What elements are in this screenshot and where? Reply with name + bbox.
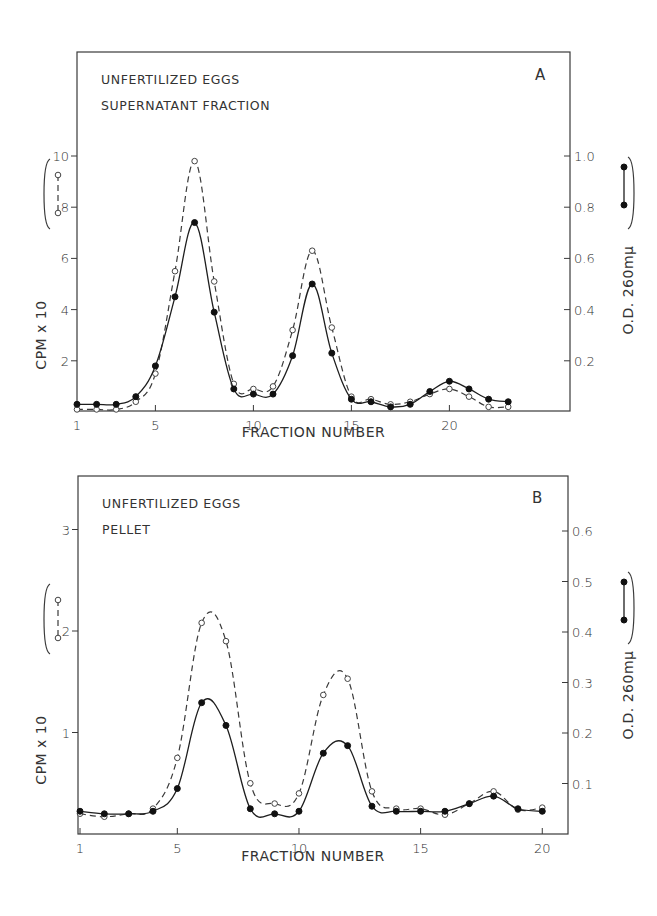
open-circle-legend-icon — [44, 584, 61, 654]
data-point — [486, 396, 492, 402]
data-point — [211, 279, 217, 285]
plot-frame — [78, 476, 568, 834]
data-point — [348, 396, 354, 402]
data-point — [113, 401, 119, 407]
data-point — [77, 808, 83, 814]
panel-subtitle: SUPERNATANT FRACTION — [101, 98, 270, 113]
data-point — [152, 363, 158, 369]
y2-tick-label: 0.2 — [574, 354, 595, 369]
x-axis-label: FRACTION NUMBER — [241, 848, 384, 864]
data-point — [418, 808, 424, 814]
data-point — [199, 700, 205, 706]
data-point — [175, 755, 181, 761]
y2-tick-label: 0.6 — [574, 251, 595, 266]
y2-tick-label: 0.2 — [572, 726, 593, 741]
panel-subtitle: PELLET — [102, 522, 151, 537]
y-tick-label: 2 — [62, 624, 70, 639]
data-point — [290, 353, 296, 359]
data-point — [133, 394, 139, 400]
data-point — [486, 404, 492, 410]
data-point — [309, 248, 315, 254]
y2-tick-label: 0.4 — [572, 625, 593, 640]
data-point — [172, 268, 178, 274]
data-point — [407, 401, 413, 407]
x-tick-label: 20 — [441, 418, 458, 433]
y2-tick-label: 0.8 — [574, 200, 595, 215]
data-point — [272, 801, 278, 807]
panel-letter: A — [535, 66, 546, 84]
series-cpm — [77, 612, 545, 820]
x-tick-label: 1 — [76, 841, 84, 856]
y-tick-label: 8 — [61, 200, 69, 215]
data-point — [515, 806, 521, 812]
data-point — [223, 638, 229, 644]
data-point — [466, 386, 472, 392]
y2-tick-label: 1.0 — [574, 149, 595, 164]
data-point — [442, 808, 448, 814]
data-point — [296, 791, 302, 797]
data-point — [345, 676, 351, 682]
data-point — [505, 399, 511, 405]
filled-circle-legend-icon — [621, 157, 634, 229]
series-line — [77, 161, 508, 410]
series-line — [80, 612, 542, 817]
data-point — [250, 391, 256, 397]
y2-tick-label: 0.3 — [572, 676, 593, 691]
data-point — [270, 384, 276, 390]
data-point — [369, 789, 375, 795]
data-point — [393, 808, 399, 814]
y-tick-label: 6 — [61, 251, 69, 266]
series-cpm — [74, 158, 511, 412]
data-point — [211, 309, 217, 315]
data-point — [539, 808, 545, 814]
data-point — [94, 401, 100, 407]
y2-axis-label: O.D. 260mμ — [620, 651, 636, 740]
y-tick-label: 1 — [62, 726, 70, 741]
data-point — [329, 350, 335, 356]
data-point — [74, 401, 80, 407]
y2-tick-label: 0.1 — [572, 777, 593, 792]
data-point — [223, 722, 229, 728]
data-point — [290, 327, 296, 333]
data-point — [388, 404, 394, 410]
panel-title: UNFERTILIZED EGGS — [102, 496, 241, 511]
open-circle-legend-icon — [44, 159, 61, 229]
data-point — [101, 811, 107, 817]
y2-tick-label: 0.6 — [572, 524, 593, 539]
data-point — [199, 620, 205, 626]
x-tick-label: 5 — [151, 418, 159, 433]
data-point — [368, 399, 374, 405]
chart-panel-b: 151015201230.10.20.30.40.50.6UNFERTILIZE… — [33, 476, 636, 864]
data-point — [272, 811, 278, 817]
data-point — [320, 750, 326, 756]
filled-circle-legend-icon — [621, 572, 634, 644]
y2-tick-label: 0.4 — [574, 303, 595, 318]
data-point — [248, 780, 254, 786]
data-point — [427, 389, 433, 395]
data-point — [345, 743, 351, 749]
panel-title: UNFERTILIZED EGGS — [101, 72, 240, 87]
data-point — [466, 801, 472, 807]
y-axis-label: CPM x 10 — [33, 300, 49, 369]
data-point — [491, 793, 497, 799]
data-point — [321, 692, 327, 698]
chart-panel-a: 151015202468100.20.40.60.81.0UNFERTILIZE… — [33, 52, 636, 440]
y-tick-label: 4 — [61, 303, 69, 318]
x-tick-label: 1 — [73, 418, 81, 433]
data-point — [231, 386, 237, 392]
data-point — [466, 394, 472, 400]
data-point — [247, 806, 253, 812]
data-point — [329, 325, 335, 331]
data-point — [172, 294, 178, 300]
x-tick-label: 15 — [412, 841, 429, 856]
data-point — [174, 786, 180, 792]
y-tick-label: 10 — [52, 149, 69, 164]
data-point — [369, 803, 375, 809]
x-tick-label: 5 — [173, 841, 181, 856]
data-point — [447, 386, 453, 392]
figure: 151015202468100.20.40.60.81.0UNFERTILIZE… — [0, 0, 657, 916]
data-point — [150, 808, 156, 814]
data-point — [309, 281, 315, 287]
y2-axis-label: O.D. 260mμ — [620, 246, 636, 335]
x-axis-label: FRACTION NUMBER — [242, 424, 385, 440]
